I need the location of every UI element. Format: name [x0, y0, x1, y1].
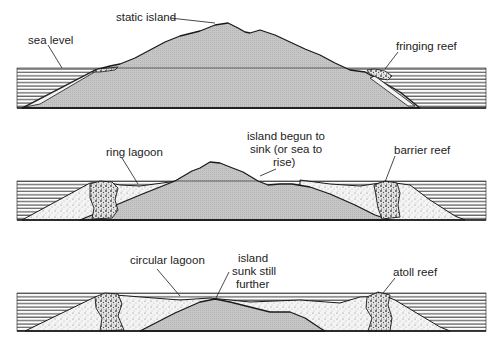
leader-barrier-reef: [385, 156, 395, 182]
island: [22, 23, 420, 108]
leader-ring-lagoon: [122, 158, 138, 184]
barrier-reef-left: [90, 181, 118, 219]
stage-fringing-reef: static island sea level fringing reef: [17, 11, 486, 108]
leader-fringing-reef: [385, 52, 398, 69]
label-static-island: static island: [116, 11, 176, 23]
leader-island-sinking: [260, 169, 276, 176]
leader-atoll-reef: [383, 278, 395, 293]
stage-atoll: circular lagoon island sunk still furthe…: [17, 252, 486, 331]
leader-sea-level: [48, 45, 62, 68]
label-island-sunk-line3: further: [236, 278, 269, 290]
label-island-sunk-line2: sunk still: [232, 265, 276, 277]
label-ring-lagoon: ring lagoon: [106, 146, 163, 158]
leader-circular-lagoon: [157, 269, 180, 296]
label-fringing-reef: fringing reef: [396, 40, 458, 52]
label-sea-level: sea level: [28, 34, 73, 46]
atoll-reef-right: [366, 292, 392, 331]
leader-static-island: [170, 18, 215, 23]
label-circular-lagoon: circular lagoon: [130, 254, 205, 266]
label-atoll-reef: atoll reef: [393, 266, 438, 278]
label-barrier-reef: barrier reef: [394, 144, 451, 156]
label-island-begun-line1: island begun to: [247, 130, 325, 142]
stage-barrier-reef: ring lagoon island begun to sink (or sea…: [17, 130, 486, 220]
label-island-sunk-line1: island: [238, 252, 268, 264]
label-island-begun-line2: sink (or sea to: [250, 143, 322, 155]
coral-reef-diagram: static island sea level fringing reef ri…: [0, 0, 503, 348]
label-island-begun-line3: rise): [273, 156, 296, 168]
